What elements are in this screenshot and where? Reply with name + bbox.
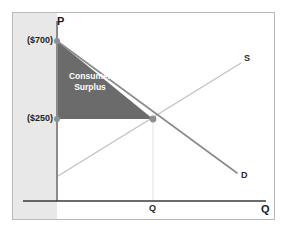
chart-frame: Consumer Surplus P Q ($700) ($250) Q S D [12,12,275,220]
consumer-surplus-label: Consumer Surplus [59,71,121,93]
price-tick-250: ($250) [13,113,53,123]
demand-intercept-marker [54,38,60,44]
consumer-surplus-label-line2: Surplus [59,82,121,93]
demand-curve-label: D [241,170,248,180]
price-tick-700: ($700) [13,35,53,45]
equilibrium-marker [150,116,157,123]
supply-curve-label: S [244,53,250,63]
figure-root: Consumer Surplus P Q ($700) ($250) Q S D [0,0,288,235]
x-axis-label: Q [261,203,270,215]
price-level-marker [54,116,60,122]
consumer-surplus-label-line1: Consumer [59,71,121,82]
y-axis-label: P [57,15,65,27]
quantity-tick-equilibrium: Q [149,203,156,213]
